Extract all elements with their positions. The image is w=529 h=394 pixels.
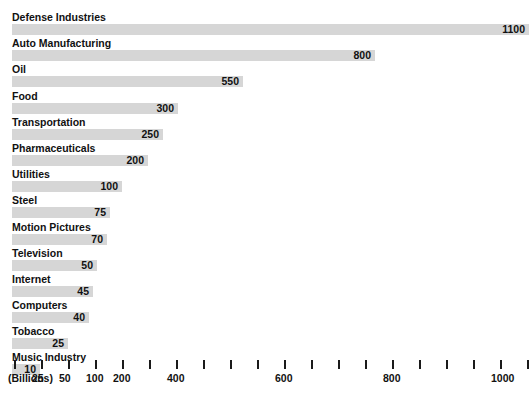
x-axis-tick (284, 360, 286, 369)
x-axis-tick-label: 200 (113, 372, 131, 384)
x-axis-tick (392, 360, 394, 369)
bar-value-label: 1100 (12, 23, 525, 35)
bar-value-label: 800 (12, 49, 371, 61)
x-axis-tick (68, 360, 70, 369)
bar-row: Auto Manufacturing800 (0, 38, 529, 64)
x-axis-tick-label: 50 (59, 372, 71, 384)
bar-row: Oil550 (0, 64, 529, 90)
bar-row: Internet45 (0, 274, 529, 300)
financial-universe-bar-chart: The Financial Universe Defense Industrie… (0, 0, 529, 394)
x-axis-tick (14, 360, 16, 369)
bar-rows-container: Defense Industries1100Auto Manufacturing… (0, 12, 529, 379)
category-label: Internet (12, 273, 51, 285)
category-label: Television (12, 247, 63, 259)
x-axis-tick (122, 360, 124, 369)
bar-row: Pharmaceuticals200 (0, 143, 529, 169)
bar-row: Food300 (0, 91, 529, 117)
bar-value-label: 100 (12, 180, 118, 192)
x-axis-tick (176, 360, 178, 369)
bar-value-label: 40 (12, 311, 85, 323)
category-label: Computers (12, 299, 67, 311)
x-axis-tick (257, 360, 259, 369)
x-axis-tick-label: 1000 (491, 372, 514, 384)
category-label: Utilities (12, 168, 50, 180)
x-axis-tick (149, 360, 151, 369)
bar-value-label: 45 (12, 285, 89, 297)
category-label: Oil (12, 63, 26, 75)
x-axis-tick (500, 360, 502, 369)
bar-value-label: 25 (12, 337, 64, 349)
bar-row: Computers40 (0, 300, 529, 326)
bar-row: Transportation250 (0, 117, 529, 143)
category-label: Steel (12, 194, 37, 206)
x-axis-tick (311, 360, 313, 369)
bar-value-label: 50 (12, 259, 93, 271)
bar-value-label: 200 (12, 154, 144, 166)
x-axis-tick (41, 360, 43, 369)
x-axis: (Billions) 25501002004006008001000 (0, 360, 529, 394)
bar-row: Television50 (0, 248, 529, 274)
x-axis-tick (419, 360, 421, 369)
x-axis-tick (338, 360, 340, 369)
category-label: Motion Pictures (12, 221, 91, 233)
category-label: Auto Manufacturing (12, 37, 111, 49)
bar-value-label: 75 (12, 206, 106, 218)
category-label: Food (12, 90, 38, 102)
x-axis-tick-label: 25 (32, 372, 44, 384)
x-axis-tick-label: 100 (86, 372, 104, 384)
category-label: Defense Industries (12, 11, 106, 23)
bar-value-label: 70 (12, 233, 103, 245)
category-label: Transportation (12, 116, 86, 128)
bar-row: Motion Pictures70 (0, 222, 529, 248)
x-axis-tick (95, 360, 97, 369)
x-axis-tick (365, 360, 367, 369)
x-axis-tick-label: 400 (167, 372, 185, 384)
bar-value-label: 550 (12, 75, 239, 87)
x-axis-tick (230, 360, 232, 369)
x-axis-tick-label: 800 (383, 372, 401, 384)
category-label: Pharmaceuticals (12, 142, 95, 154)
bar-row: Tobacco25 (0, 326, 529, 352)
x-axis-tick (203, 360, 205, 369)
x-axis-tick-label: 600 (275, 372, 293, 384)
category-label: Tobacco (12, 325, 54, 337)
x-axis-tick (446, 360, 448, 369)
bar-value-label: 250 (12, 128, 159, 140)
bar-row: Steel75 (0, 195, 529, 221)
x-axis-units-label: (Billions) (8, 372, 53, 384)
bar-row: Utilities100 (0, 169, 529, 195)
bar-value-label: 300 (12, 102, 174, 114)
x-axis-tick (473, 360, 475, 369)
bar-row: Defense Industries1100 (0, 12, 529, 38)
